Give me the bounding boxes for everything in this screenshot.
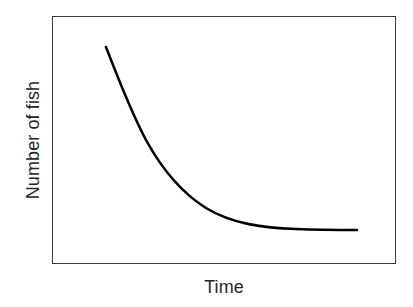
chart-figure: Number of fish Time	[0, 0, 413, 307]
plot-area-frame	[52, 16, 396, 264]
y-axis-label: Number of fish	[22, 16, 44, 264]
x-axis-label: Time	[52, 277, 396, 298]
